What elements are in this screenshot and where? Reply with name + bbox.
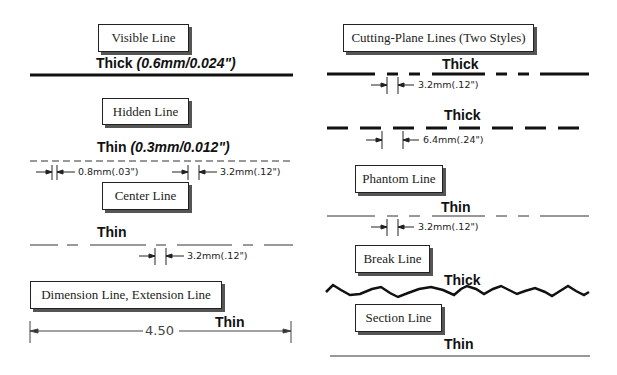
cutting-plane-2-dimension: 6.4mm(.24") xyxy=(423,134,484,145)
section-line-title-box: Section Line xyxy=(355,304,442,332)
break-line-weight-label: Thick xyxy=(444,272,481,288)
dimension-value: 4.50 xyxy=(145,323,174,338)
break-line-title-box: Break Line xyxy=(355,245,430,273)
visible-line-title: Visible Line xyxy=(112,30,176,46)
cutting-plane-1-dimension: 3.2mm(.12") xyxy=(418,79,479,90)
center-line-title-box: Center Line xyxy=(102,182,189,210)
section-line-title: Section Line xyxy=(365,310,431,326)
cutting-plane-2-weight-label: Thick xyxy=(444,107,481,123)
center-line-title: Center Line xyxy=(115,188,177,204)
cutting-plane-title: Cutting-Plane Lines (Two Styles) xyxy=(351,30,525,46)
center-line-weight-label: Thin xyxy=(97,224,127,240)
phantom-line-title: Phantom Line xyxy=(362,171,435,187)
dimension-line-title-box: Dimension Line, Extension Line xyxy=(30,281,222,309)
cutting-plane-title-box: Cutting-Plane Lines (Two Styles) xyxy=(343,24,534,52)
center-gap-dimension: 3.2mm(.12") xyxy=(187,250,248,261)
phantom-line-weight-label: Thin xyxy=(441,199,471,215)
phantom-line-title-box: Phantom Line xyxy=(355,165,443,193)
phantom-dimension: 3.2mm(.12") xyxy=(418,221,479,232)
visible-line-title-box: Visible Line xyxy=(98,24,189,52)
hidden-dash-dimension: 3.2mm(.12") xyxy=(220,166,281,177)
dimension-line-weight-label: Thin xyxy=(215,314,245,330)
hidden-line-title: Hidden Line xyxy=(113,104,178,120)
cutting-plane-1-weight-label: Thick xyxy=(442,56,479,72)
break-line-title: Break Line xyxy=(363,251,421,267)
hidden-gap-dimension: 0.8mm(.03") xyxy=(78,166,139,177)
section-line-weight-label: Thin xyxy=(444,336,474,352)
visible-line-weight-label: Thick (0.6mm/0.024") xyxy=(96,55,236,71)
dimension-line-title: Dimension Line, Extension Line xyxy=(41,287,211,303)
hidden-line-weight-label: Thin (0.3mm/0.012") xyxy=(97,139,230,155)
line-drawing xyxy=(0,0,617,375)
hidden-line-title-box: Hidden Line xyxy=(102,98,189,125)
